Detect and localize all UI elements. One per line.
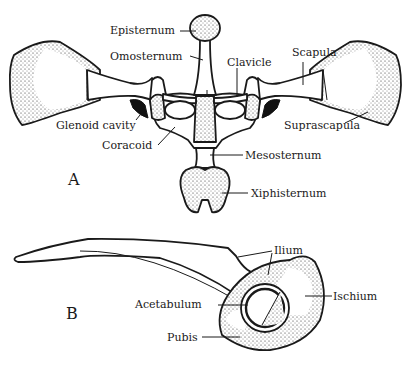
right-fenestra — [215, 101, 245, 119]
omosternum — [194, 40, 216, 95]
left-fenestra — [165, 101, 195, 119]
label-pubis: Pubis — [167, 331, 198, 344]
right-glenoid-cavity — [262, 100, 280, 118]
label-ischium: Ischium — [333, 290, 378, 303]
label-coracoid: Coracoid — [102, 139, 152, 152]
xiphisternum — [180, 167, 229, 212]
left-glenoid-cavity — [130, 100, 148, 118]
label-omosternum: Omosternum — [110, 50, 183, 63]
label-ilium: Ilium — [274, 244, 303, 257]
episternum — [190, 15, 220, 41]
label-suprascapula: Suprascapula — [284, 119, 360, 132]
epicoracoid-stippled — [194, 96, 216, 142]
panel-letter-a: A — [67, 170, 80, 189]
label-clavicle: Clavicle — [227, 56, 271, 69]
label-mesosternum: Mesosternum — [245, 149, 322, 162]
label-acetabulum: Acetabulum — [134, 298, 202, 311]
label-glenoid-cavity: Glenoid cavity — [56, 119, 136, 132]
label-scapula: Scapula — [292, 46, 337, 59]
mesosternum — [195, 148, 215, 168]
anatomy-diagram: Episternum Omosternum Clavicle Scapula G… — [0, 0, 410, 365]
label-xiphisternum: Xiphisternum — [251, 187, 327, 200]
label-episternum: Episternum — [110, 24, 176, 37]
panel-letter-b: B — [66, 304, 78, 323]
